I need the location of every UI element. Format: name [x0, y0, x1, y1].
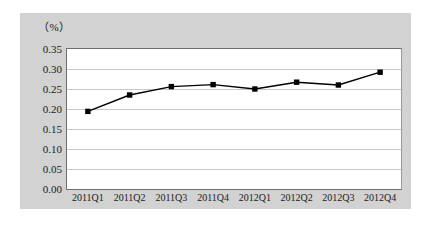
- x-axis-tick-label: 2011Q1: [72, 193, 104, 203]
- y-axis-tick-label: 0.30: [43, 64, 62, 75]
- y-axis-tick-label: 0.10: [43, 144, 62, 155]
- y-axis-tick-label: 0.05: [43, 164, 62, 175]
- gridline: [67, 89, 401, 90]
- gridline: [67, 149, 401, 150]
- y-axis-tick-label: 0.20: [43, 104, 62, 115]
- x-axis-tick-label: 2011Q3: [155, 193, 187, 203]
- y-axis-tick-labels: 0.350.300.250.200.150.100.050.00: [20, 48, 62, 189]
- chart-figure: （%） 0.350.300.250.200.150.100.050.00 201…: [20, 13, 411, 209]
- y-axis-tick-label: 0.00: [43, 184, 62, 195]
- gridline: [67, 109, 401, 110]
- x-axis-tick-label: 2012Q2: [281, 193, 313, 203]
- x-axis-tick-label: 2012Q1: [239, 193, 271, 203]
- gridline: [67, 169, 401, 170]
- x-axis-tick-labels: 2011Q12011Q22011Q32011Q42012Q12012Q22012…: [66, 193, 402, 209]
- y-axis-tick-label: 0.35: [43, 44, 62, 55]
- y-axis-unit-label: （%）: [38, 18, 71, 34]
- x-axis-tick-label: 2012Q3: [322, 193, 354, 203]
- x-axis-tick-label: 2011Q2: [114, 193, 146, 203]
- gridline: [67, 129, 401, 130]
- x-axis-tick-label: 2011Q4: [197, 193, 229, 203]
- y-axis-tick-label: 0.15: [43, 124, 62, 135]
- plot-area: [66, 48, 402, 190]
- gridline: [67, 69, 401, 70]
- y-axis-tick-label: 0.25: [43, 84, 62, 95]
- x-axis-tick-label: 2012Q4: [364, 193, 396, 203]
